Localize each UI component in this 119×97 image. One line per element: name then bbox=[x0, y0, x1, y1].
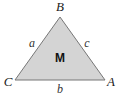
vertex-label-a: A bbox=[106, 74, 115, 89]
vertex-label-b: B bbox=[56, 0, 64, 14]
side-label-b: b bbox=[57, 82, 63, 96]
center-label-m: M bbox=[55, 51, 65, 65]
vertex-label-c: C bbox=[4, 74, 13, 89]
triangle-diagram: B C A a c b M bbox=[0, 0, 119, 97]
side-label-c: c bbox=[84, 36, 90, 50]
side-label-a: a bbox=[29, 36, 35, 50]
